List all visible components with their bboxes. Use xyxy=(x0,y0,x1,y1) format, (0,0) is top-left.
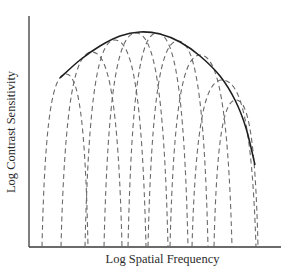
channel-curve xyxy=(128,33,188,247)
channel-curve xyxy=(104,33,168,247)
channel-curve xyxy=(148,41,208,247)
channel-curve xyxy=(61,52,122,247)
channel-curve xyxy=(170,55,232,247)
x-axis-label: Log Spatial Frequency xyxy=(0,252,295,267)
contrast-sensitivity-diagram xyxy=(0,0,295,278)
channel-curve xyxy=(85,40,146,247)
y-axis-label: Log Contrast Sensitivity xyxy=(4,71,19,193)
channel-curve xyxy=(214,100,258,247)
channel-curve xyxy=(192,80,256,247)
